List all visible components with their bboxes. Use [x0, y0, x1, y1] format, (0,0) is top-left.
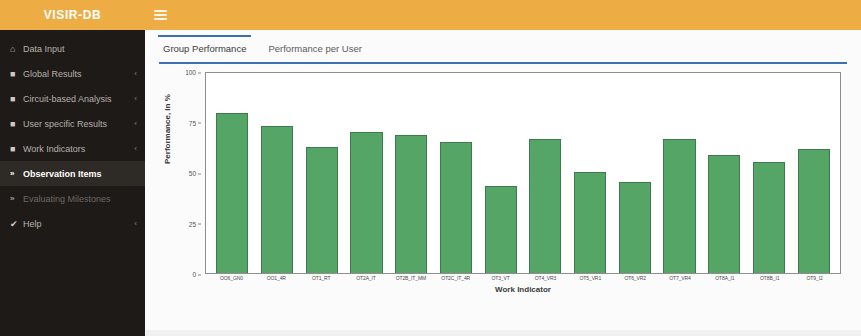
group-performance-chart: Performance, in % 0255075100 OO6_GN0OO1_…	[159, 72, 847, 322]
sidebar-item-data-input[interactable]: ⌂Data Input	[0, 36, 145, 61]
sidebar-nav: ⌂Data Input■Global Results‹■Circuit-base…	[0, 30, 145, 236]
bar-slot	[299, 73, 344, 273]
content-area: Group PerformancePerformance per User Pe…	[145, 38, 861, 322]
x-axis-tick: OT8A_I1	[702, 275, 747, 281]
tab-performance-per-user[interactable]: Performance per User	[266, 38, 363, 60]
sidebar-item-label: Observation Items	[23, 169, 137, 179]
tab-list: Group PerformancePerformance per User	[159, 38, 847, 60]
x-axis-tick: OT9_I2	[792, 275, 837, 281]
brand-title: VISIR-DB	[44, 8, 101, 22]
bar-slot	[568, 73, 613, 273]
x-axis-label: Work Indicator	[205, 285, 841, 294]
bar-slot	[344, 73, 389, 273]
y-axis-tick: 100	[185, 69, 196, 76]
x-axis-tick: OT8B_I1	[747, 275, 792, 281]
x-axis-tick: OT2C_IT_4R	[433, 275, 478, 281]
x-axis-tick: OO1_4R	[254, 275, 299, 281]
double-chevron-right-icon: »	[10, 194, 23, 203]
tab-underline-rule	[159, 62, 847, 64]
bar-slot	[210, 73, 255, 273]
chevron-left-icon: ‹	[134, 144, 137, 153]
sidebar-item-label: Work Indicators	[23, 144, 134, 154]
bar[interactable]	[216, 113, 248, 273]
bar-slot	[523, 73, 568, 273]
x-axis-tick: OT7_VR4	[658, 275, 703, 281]
bar[interactable]	[574, 172, 606, 273]
topbar	[145, 0, 861, 30]
y-axis-tick: 0	[192, 271, 196, 278]
bar-slot	[657, 73, 702, 273]
application-window: VISIR-DB ⌂Data Input■Global Results‹■Cir…	[0, 0, 861, 336]
sidebar-item-label: Help	[23, 219, 134, 229]
sidebar-item-work-indicators[interactable]: ■Work Indicators‹	[0, 136, 145, 161]
sidebar-item-label: Evaluating Milestones	[23, 194, 137, 204]
sidebar-item-label: Data Input	[23, 44, 137, 54]
sidebar-item-label: User specific Results	[23, 119, 134, 129]
bar-slot	[478, 73, 523, 273]
tab-group-performance[interactable]: Group Performance	[161, 38, 248, 60]
x-axis-tick: OT2A_IT	[344, 275, 389, 281]
bar[interactable]	[663, 139, 695, 273]
y-axis-tick: 50	[189, 170, 196, 177]
bar[interactable]	[619, 182, 651, 273]
x-axis-tick: OT3_VT	[478, 275, 523, 281]
y-axis-ticks: 0255075100	[175, 72, 201, 274]
plot-frame	[205, 72, 841, 274]
bar[interactable]	[306, 147, 338, 273]
bar-slot	[791, 73, 836, 273]
tabs-container: Group PerformancePerformance per User	[159, 38, 847, 64]
x-axis-tick: OT4_VR3	[523, 275, 568, 281]
bar[interactable]	[395, 135, 427, 273]
main-panel: Group PerformancePerformance per User Pe…	[145, 0, 861, 336]
x-axis-tick: OT1_RT	[299, 275, 344, 281]
x-axis-tick: OT5_VR1	[568, 275, 613, 281]
sidebar-item-help[interactable]: ✔Help‹	[0, 211, 145, 236]
bar[interactable]	[440, 142, 472, 273]
bar[interactable]	[350, 132, 382, 273]
double-chevron-right-icon: »	[10, 169, 23, 178]
brand-header: VISIR-DB	[0, 0, 145, 30]
bar[interactable]	[708, 155, 740, 273]
bar[interactable]	[261, 126, 293, 273]
sidebar: VISIR-DB ⌂Data Input■Global Results‹■Cir…	[0, 0, 145, 336]
sidebar-item-evaluating-milestones[interactable]: »Evaluating Milestones	[0, 186, 145, 211]
bar[interactable]	[529, 139, 561, 273]
hamburger-icon[interactable]	[154, 8, 167, 23]
chevron-left-icon: ‹	[134, 94, 137, 103]
chevron-left-icon: ‹	[134, 119, 137, 128]
sidebar-item-label: Circuit-based Analysis	[23, 94, 134, 104]
y-axis-tick: 75	[189, 119, 196, 126]
bar-slot	[389, 73, 434, 273]
bar[interactable]	[753, 162, 785, 273]
sidebar-item-circuit-based-analysis[interactable]: ■Circuit-based Analysis‹	[0, 86, 145, 111]
sidebar-item-user-specific-results[interactable]: ■User specific Results‹	[0, 111, 145, 136]
bar[interactable]	[485, 186, 517, 273]
sidebar-item-observation-items[interactable]: »Observation Items	[0, 161, 145, 186]
home-icon: ⌂	[10, 44, 23, 54]
folder-icon: ■	[10, 144, 23, 154]
folder-icon: ■	[10, 119, 23, 129]
bar-slot	[255, 73, 300, 273]
y-axis-label: Performance, in %	[163, 94, 172, 164]
chevron-left-icon: ‹	[134, 69, 137, 78]
bar-slot	[747, 73, 792, 273]
folder-icon: ■	[10, 94, 23, 104]
folder-icon: ■	[10, 69, 23, 79]
x-axis-tick: OT6_VR2	[613, 275, 658, 281]
help-circle-icon: ✔	[10, 219, 23, 229]
bar-slot	[612, 73, 657, 273]
bar[interactable]	[798, 149, 830, 273]
bar-series	[206, 73, 840, 273]
x-axis-tick: OT2B_IT_MM	[388, 275, 433, 281]
sidebar-item-global-results[interactable]: ■Global Results‹	[0, 61, 145, 86]
y-axis-tick: 25	[189, 220, 196, 227]
x-axis-ticks: OO6_GN0OO1_4ROT1_RTOT2A_ITOT2B_IT_MMOT2C…	[205, 275, 841, 281]
bar-slot	[434, 73, 479, 273]
chevron-left-icon: ‹	[134, 219, 137, 228]
horizontal-scrollbar[interactable]	[145, 330, 861, 336]
bar-slot	[702, 73, 747, 273]
sidebar-item-label: Global Results	[23, 69, 134, 79]
x-axis-tick: OO6_GN0	[209, 275, 254, 281]
